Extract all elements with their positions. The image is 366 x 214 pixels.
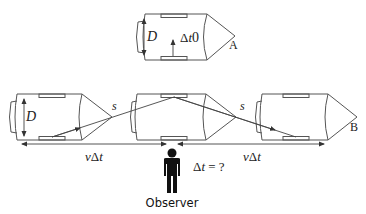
light-path-up-arrow (52, 128, 80, 137)
ship-left-nose (82, 94, 112, 140)
ship-left: D (10, 94, 113, 140)
ship-left-width-label: D (25, 109, 36, 124)
ship-middle-engine (131, 101, 138, 133)
ship-b-top-mirror (283, 94, 309, 98)
path-label-s-2: s (240, 99, 245, 113)
observer: Observer Δt = ? (146, 149, 225, 211)
ship-middle-body (135, 94, 206, 140)
ship-middle-nose (206, 94, 236, 140)
ship-middle-top-mirror (161, 94, 187, 98)
light-path: s s (52, 97, 296, 137)
ship-middle-bottom-mirror (161, 137, 187, 141)
ship-b: B (256, 94, 359, 140)
distance-label-right: vΔt (243, 149, 261, 164)
distance-label-left: vΔt (85, 149, 103, 164)
ship-b-bottom-mirror (283, 137, 309, 141)
ship-a-time-label: Δt0 (180, 30, 199, 45)
observer-label: Observer (146, 196, 199, 210)
path-label-s-1: s (112, 99, 117, 113)
ship-left-bottom-mirror (39, 137, 65, 141)
ship-a-width-label: D (146, 29, 157, 44)
ship-a-rest: D Δt0 A (137, 14, 239, 60)
light-clock-diagram: D Δt0 A D B s s (0, 0, 366, 214)
ship-middle (131, 94, 237, 140)
ship-a-label: A (229, 38, 238, 52)
ship-a-nose (207, 14, 235, 60)
ship-a-top-mirror (161, 14, 187, 18)
ship-b-label: B (350, 120, 358, 134)
ship-a-bottom-mirror (161, 57, 187, 61)
observer-person-icon (164, 149, 180, 194)
ship-b-engine (256, 101, 263, 133)
ship-left-top-mirror (39, 94, 65, 98)
observer-question: Δt = ? (193, 159, 225, 174)
ship-b-body (260, 94, 328, 140)
